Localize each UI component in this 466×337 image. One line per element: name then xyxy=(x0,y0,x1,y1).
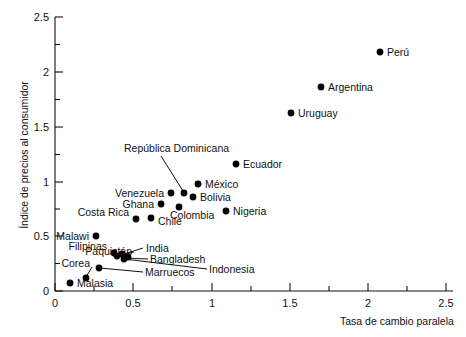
y-tick-label-1: 1 xyxy=(43,176,49,188)
point-ghana[interactable] xyxy=(158,201,165,208)
y-tick-label-0-5: 0.5 xyxy=(34,230,49,242)
label-paquistan: Paquistán xyxy=(85,245,132,257)
label-indonesia: Indonesia xyxy=(209,263,255,275)
y-tick-label-0: 0 xyxy=(43,285,49,297)
point-venezuela[interactable] xyxy=(168,190,175,197)
label-chile: Chile xyxy=(158,215,182,227)
x-axis-title: Tasa de cambio paralela xyxy=(340,315,454,327)
point-nigeria[interactable] xyxy=(223,208,230,215)
leader-marruecos xyxy=(100,268,143,272)
x-tick-label-2-5: 2.5 xyxy=(438,297,453,309)
x-tick-label-2: 2 xyxy=(365,297,371,309)
label-nigeria: Nigeria xyxy=(233,205,266,217)
point-uruguay[interactable] xyxy=(288,110,295,117)
point-malasia[interactable] xyxy=(67,280,74,287)
point-mexico[interactable] xyxy=(195,181,202,188)
point-republica-dominicana[interactable] xyxy=(181,190,188,197)
label-marruecos: Marruecos xyxy=(145,266,195,278)
x-tick-label-0-5: 0.5 xyxy=(125,297,140,309)
label-bangladesh: Bangladesh xyxy=(150,253,206,265)
x-axis-minor-ticks xyxy=(94,286,407,291)
label-malasia: Malasia xyxy=(77,277,113,289)
point-labels: Perú Argentina Uruguay Ecuador México Bo… xyxy=(56,46,409,289)
label-ecuador: Ecuador xyxy=(243,158,283,170)
scatter-chart: 2.5 2 1.5 1 0.5 0 0 0.5 1 1.5 2 2.5 Tasa… xyxy=(0,0,466,337)
label-costa-rica: Costa Rica xyxy=(78,206,130,218)
chart-canvas: 2.5 2 1.5 1 0.5 0 0 0.5 1 1.5 2 2.5 Tasa… xyxy=(0,0,466,337)
point-bolivia[interactable] xyxy=(190,194,197,201)
x-tick-label-1: 1 xyxy=(209,297,215,309)
point-malawi[interactable] xyxy=(93,233,100,240)
y-tick-label-2-5: 2.5 xyxy=(34,11,49,23)
point-peru[interactable] xyxy=(377,49,384,56)
leader-republica-dominicana xyxy=(161,156,183,191)
point-argentina[interactable] xyxy=(318,84,325,91)
x-tick-label-0: 0 xyxy=(52,297,58,309)
label-mexico: México xyxy=(205,178,238,190)
point-marruecos[interactable] xyxy=(96,265,103,272)
label-peru: Perú xyxy=(387,46,409,58)
x-tick-label-1-5: 1.5 xyxy=(282,297,297,309)
point-ecuador[interactable] xyxy=(233,161,240,168)
y-tick-label-2: 2 xyxy=(43,66,49,78)
label-corea: Corea xyxy=(61,257,90,269)
y-axis-title: Índice de precios al consumidor xyxy=(18,81,30,229)
y-tick-label-1-5: 1.5 xyxy=(34,121,49,133)
label-republica-dominicana: República Dominicana xyxy=(124,142,229,154)
label-argentina: Argentina xyxy=(328,81,373,93)
label-bolivia: Bolivia xyxy=(200,191,231,203)
point-costa-rica[interactable] xyxy=(133,216,140,223)
point-chile[interactable] xyxy=(148,215,155,222)
label-uruguay: Uruguay xyxy=(298,107,338,119)
